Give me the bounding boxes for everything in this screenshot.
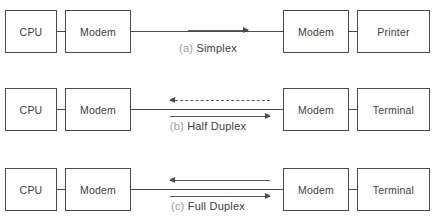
caption-name: Half Duplex [187, 120, 246, 132]
transmission-modes-diagram: CPU Modem Modem Printer (a) Simplex CP [0, 0, 436, 221]
node-modem-right-label: Modem [298, 26, 334, 38]
node-modem-left-label: Modem [80, 184, 116, 196]
connector-cpu-modem [57, 109, 65, 110]
arrow-shaft [170, 116, 270, 117]
node-terminal-label: Terminal [373, 104, 414, 116]
connector-cpu-modem [57, 31, 65, 32]
node-terminal-label: Terminal [373, 184, 414, 196]
arrow-shaft [188, 30, 248, 31]
arrow-head [243, 27, 249, 33]
arrow-right-icon [188, 26, 248, 35]
node-cpu-label: CPU [20, 26, 43, 38]
arrow-left-dashed-icon [170, 96, 270, 105]
arrow-head [169, 97, 175, 103]
caption-name: Full Duplex [188, 200, 245, 212]
caption-tag: (b) [170, 120, 184, 132]
arrow-head [265, 193, 271, 199]
connector-modem-destination [349, 189, 357, 190]
node-printer-label: Printer [377, 26, 409, 38]
arrow-left-icon [170, 176, 270, 185]
node-cpu-label: CPU [20, 104, 43, 116]
arrow-head [265, 113, 271, 119]
caption-tag: (a) [179, 42, 193, 54]
transmission-line [131, 189, 283, 190]
caption-simplex: (a) Simplex [0, 42, 436, 54]
diagram-row-half-duplex: CPU Modem Modem Terminal (b) Half Duplex [0, 82, 436, 144]
caption-full-duplex: (c) Full Duplex [0, 200, 436, 212]
diagram-row-simplex: CPU Modem Modem Printer (a) Simplex [0, 4, 436, 66]
arrow-shaft [170, 180, 270, 181]
node-modem-left-label: Modem [80, 26, 116, 38]
connector-modem-destination [349, 109, 357, 110]
caption-tag: (c) [171, 200, 184, 212]
node-modem-right-label: Modem [298, 184, 334, 196]
arrow-head [169, 177, 175, 183]
arrow-shaft [170, 100, 270, 101]
arrow-shaft [170, 196, 270, 197]
connector-cpu-modem [57, 189, 65, 190]
caption-name: Simplex [196, 42, 237, 54]
caption-half-duplex: (b) Half Duplex [0, 120, 436, 132]
connector-modem-destination [349, 31, 357, 32]
node-modem-left-label: Modem [80, 104, 116, 116]
node-cpu-label: CPU [20, 184, 43, 196]
diagram-row-full-duplex: CPU Modem Modem Terminal (c) Full Duplex [0, 162, 436, 221]
node-modem-right-label: Modem [298, 104, 334, 116]
transmission-line [131, 109, 283, 110]
